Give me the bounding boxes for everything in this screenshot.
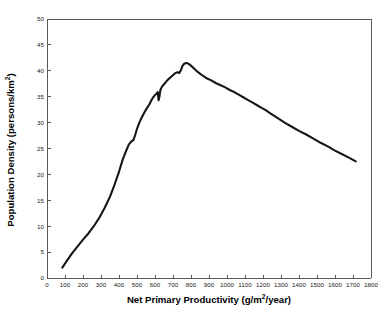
- x-tick-label: 1400: [292, 281, 306, 288]
- y-tick-label: 40: [37, 67, 44, 74]
- y-tick-label: 10: [37, 223, 44, 230]
- y-tick-label: 15: [37, 197, 44, 204]
- y-tick-label: 25: [37, 145, 44, 152]
- x-tick-label: 1500: [310, 281, 324, 288]
- y-tick-label: 20: [37, 171, 44, 178]
- x-tick-label: 0: [45, 281, 49, 288]
- x-tick-label: 1000: [220, 281, 234, 288]
- y-tick-label: 5: [41, 248, 45, 255]
- x-tick-label: 1700: [346, 281, 360, 288]
- x-tick-label: 300: [96, 281, 107, 288]
- x-tick-label: 200: [78, 281, 89, 288]
- x-tick-label: 800: [186, 281, 197, 288]
- y-tick-label: 35: [37, 93, 44, 100]
- x-tick-label: 1100: [238, 281, 252, 288]
- x-axis-title: Net Primary Productivity (g/m2/year): [127, 293, 291, 305]
- x-tick-label: 100: [60, 281, 71, 288]
- x-tick-label: 500: [132, 281, 143, 288]
- x-axis-title-main: Net Primary Productivity (g/m: [127, 294, 262, 305]
- x-tick-label: 900: [204, 281, 215, 288]
- x-tick-label: 400: [114, 281, 125, 288]
- y-tick-label: 50: [37, 15, 44, 22]
- population-density-npp-line-chart: 05101520253035404550 0100200300400500600…: [0, 0, 388, 319]
- y-tick-label: 30: [37, 119, 44, 126]
- x-tick-label: 1800: [364, 281, 378, 288]
- x-axis-title-tail: /year): [265, 294, 291, 305]
- y-axis-title-tail: ): [5, 73, 16, 76]
- x-tick-label: 1300: [274, 281, 288, 288]
- plot-area-background: [47, 19, 371, 278]
- chart-figure: 05101520253035404550 0100200300400500600…: [0, 0, 388, 319]
- x-tick-label: 1200: [256, 281, 270, 288]
- x-tick-label: 600: [150, 281, 161, 288]
- y-tick-label: 45: [37, 41, 44, 48]
- y-axis-title: Population Density (persons/km2): [4, 73, 16, 226]
- y-tick-label: 0: [41, 274, 45, 281]
- y-axis-title-main: Population Density (persons/km: [5, 80, 16, 227]
- x-tick-label: 700: [168, 281, 179, 288]
- x-tick-label: 1600: [328, 281, 342, 288]
